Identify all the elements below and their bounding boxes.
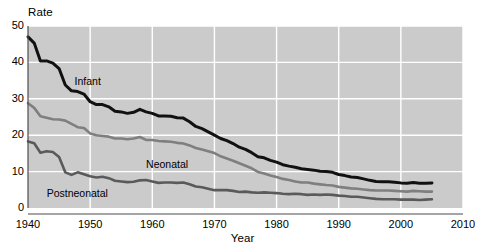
x-tick-label: 1950 bbox=[70, 218, 110, 230]
infant-mortality-rate-chart: Rate Year 01020304050 194019501960197019… bbox=[0, 0, 485, 251]
x-tick-label: 1980 bbox=[257, 218, 297, 230]
plot-background bbox=[28, 26, 463, 208]
y-tick-label: 20 bbox=[0, 128, 24, 140]
y-tick-label: 10 bbox=[0, 165, 24, 177]
y-tick-label: 0 bbox=[0, 201, 24, 213]
y-tick-label: 50 bbox=[0, 19, 24, 31]
x-axis-title: Year bbox=[0, 232, 485, 244]
y-axis-title: Rate bbox=[28, 6, 53, 18]
series-label-postneonatal: Postneonatal bbox=[47, 187, 108, 199]
x-tick-label: 1940 bbox=[8, 218, 48, 230]
x-tick-label: 1990 bbox=[319, 218, 359, 230]
x-tick-label: 1960 bbox=[132, 218, 172, 230]
series-label-neonatal: Neonatal bbox=[146, 158, 188, 170]
y-tick-label: 30 bbox=[0, 92, 24, 104]
plot-canvas bbox=[0, 0, 485, 251]
x-tick-label: 1970 bbox=[194, 218, 234, 230]
y-tick-label: 40 bbox=[0, 55, 24, 67]
series-label-infant: Infant bbox=[75, 75, 101, 87]
x-tick-label: 2000 bbox=[381, 218, 421, 230]
x-tick-label: 2010 bbox=[443, 218, 483, 230]
